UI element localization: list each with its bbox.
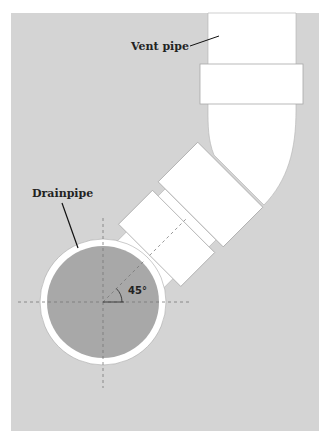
diagram-canvas xyxy=(0,0,330,439)
vent-pipe-label: Vent pipe xyxy=(131,40,189,53)
vent-coupling xyxy=(200,64,303,104)
angle-label: 45° xyxy=(128,285,147,296)
drainpipe-label: Drainpipe xyxy=(32,187,93,200)
